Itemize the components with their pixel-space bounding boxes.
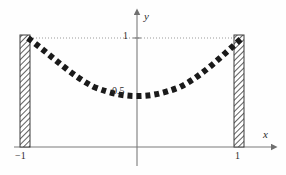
x-axis-label: x bbox=[263, 128, 268, 140]
x-tick-label-negative-one: −1 bbox=[15, 150, 26, 161]
x-tick-label-positive-one: 1 bbox=[235, 150, 240, 161]
catenary-figure: y x 1 0.5 −1 1 bbox=[0, 0, 286, 175]
y-tick-label-1: 1 bbox=[123, 30, 128, 41]
right-wall bbox=[234, 35, 244, 147]
hanging-chain-curve bbox=[28, 38, 242, 96]
plot-canvas bbox=[0, 0, 286, 175]
y-tick-label-half: 0.5 bbox=[112, 85, 125, 96]
left-wall bbox=[20, 35, 30, 147]
y-axis-label: y bbox=[144, 10, 149, 22]
